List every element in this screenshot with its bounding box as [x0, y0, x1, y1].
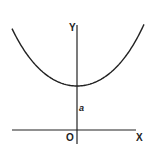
catenary-diagram: Y X O a — [0, 0, 153, 150]
intercept-label-a: a — [79, 103, 84, 113]
y-axis-label: Y — [69, 22, 76, 33]
x-axis-label: X — [136, 132, 143, 143]
origin-label: O — [66, 132, 74, 143]
